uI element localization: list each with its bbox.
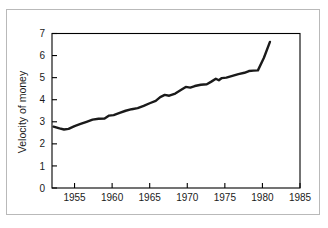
y-tick-label: 5: [39, 72, 45, 83]
y-tick-label: 7: [39, 28, 45, 39]
x-tick-label: 1985: [289, 192, 312, 203]
x-axis-tick-labels: 1955196019651970197519801985: [63, 192, 311, 203]
data-series-line: [54, 42, 270, 130]
x-tick-label: 1970: [176, 192, 199, 203]
axes-group: [52, 34, 300, 189]
y-tick-label: 2: [39, 138, 45, 149]
y-axis-title: Velocity of money: [16, 70, 28, 153]
y-tick-label: 0: [39, 183, 45, 194]
y-tick-label: 3: [39, 116, 45, 127]
chart-plot: 1955196019651970197519801985 01234567 Ve…: [0, 0, 328, 228]
y-axis-tick-labels: 01234567: [39, 28, 45, 194]
x-tick-label: 1955: [63, 192, 86, 203]
x-tick-label: 1965: [139, 192, 162, 203]
y-tick-label: 4: [39, 94, 45, 105]
y-tick-label: 1: [39, 161, 45, 172]
chart-figure: 1955196019651970197519801985 01234567 Ve…: [0, 0, 328, 228]
x-tick-label: 1975: [214, 192, 237, 203]
x-tick-label: 1960: [101, 192, 124, 203]
tick-marks-group: [52, 34, 300, 189]
x-tick-label: 1980: [251, 192, 274, 203]
y-tick-label: 6: [39, 50, 45, 61]
